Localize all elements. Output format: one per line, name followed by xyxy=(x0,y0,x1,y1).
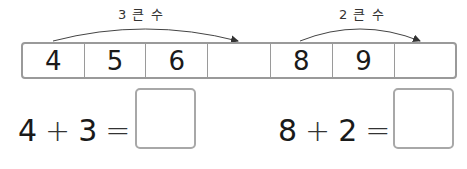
strip-cell: 6 xyxy=(146,44,208,77)
strip-cell-blank[interactable] xyxy=(208,44,271,77)
equals-sign: = xyxy=(365,113,390,148)
answer-box-2[interactable] xyxy=(393,88,454,149)
equation-2: 8 + 2 = xyxy=(278,113,398,148)
strip-cell-blank[interactable] xyxy=(395,44,455,77)
strip-cell: 5 xyxy=(85,44,147,77)
operand-b: 2 xyxy=(338,113,357,148)
plus-sign: + xyxy=(305,113,330,148)
operand-a: 8 xyxy=(278,113,297,148)
equals-sign: = xyxy=(105,113,130,148)
plus-sign: + xyxy=(45,113,70,148)
strip-cell: 4 xyxy=(23,44,85,77)
operand-a: 4 xyxy=(18,113,37,148)
number-strip: 4 5 6 8 9 xyxy=(21,42,457,79)
arrow-icon-3-more xyxy=(53,29,238,41)
answer-box-1[interactable] xyxy=(135,88,196,149)
equation-1: 4 + 3 = xyxy=(18,113,138,148)
arrow-icon-2-more xyxy=(300,29,420,41)
operand-b: 3 xyxy=(78,113,97,148)
strip-cell: 9 xyxy=(333,44,396,77)
strip-cell: 8 xyxy=(271,44,333,77)
